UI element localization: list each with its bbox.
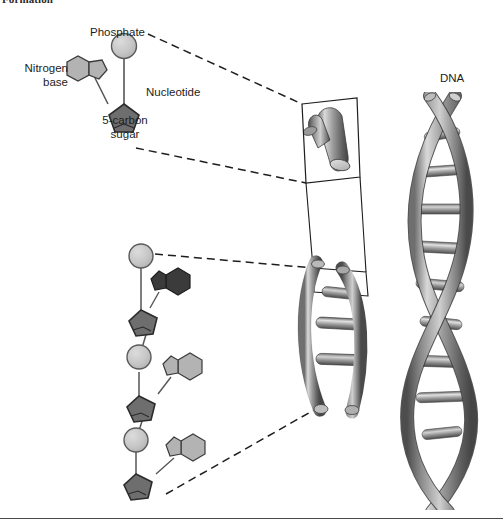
segment-left-cut-top	[312, 260, 325, 268]
label-dna: DNA	[440, 72, 464, 85]
dna-structure-figure: DNA Formation	[0, 0, 503, 531]
chain-base-2-hexagon	[178, 353, 202, 380]
chain-base-1-pentagon	[151, 271, 166, 290]
label-nucleotide: Nucleotide	[146, 86, 200, 99]
segment-right-cut-top	[337, 266, 350, 274]
base-sugar-bond	[95, 78, 108, 104]
label-nitrogen-base-line1: Nitrogen	[0, 62, 68, 75]
chain-sugar-2	[127, 396, 155, 422]
chain-base-3-bond	[156, 458, 174, 474]
connector-chain-top-to-helix	[155, 254, 313, 268]
nitrogen-base-pentagon	[89, 60, 107, 79]
chain-phosphate-2	[127, 345, 151, 369]
dashed-connectors-upper	[136, 34, 306, 183]
helix-segment-group	[304, 260, 362, 415]
chain-base-2-pentagon	[163, 356, 178, 375]
chain-sugar-1	[129, 310, 157, 336]
label-sugar-line1: 5-carbon	[79, 114, 171, 127]
chain-phosphate-3	[124, 428, 148, 452]
nucleotide-chain-group	[124, 244, 205, 500]
chain-phosphate-1	[129, 244, 153, 268]
chain-base-3-pentagon	[166, 437, 181, 456]
helix-rung-8	[416, 391, 466, 403]
callout-line-left	[306, 183, 313, 268]
nitrogen-base-hexagon	[67, 56, 89, 81]
chain-base-1-bond	[150, 292, 159, 308]
chain-base-1-hexagon	[166, 268, 190, 295]
helix-rung-9	[422, 426, 463, 440]
chain-base-3-hexagon	[181, 434, 205, 461]
label-sugar-line2: sugar	[79, 128, 171, 141]
segment-right-cut-bottom	[345, 406, 359, 415]
connector-sugar-to-inset	[136, 148, 306, 183]
label-nitrogen-base-line2: base	[0, 76, 68, 89]
chain-base-2-bond	[158, 377, 171, 394]
dna-double-helix-group	[407, 91, 471, 512]
label-phosphate: Phosphate	[90, 26, 145, 39]
segment-left-cut-bottom	[314, 405, 328, 414]
callout-line-right	[360, 177, 366, 272]
figure-canvas	[0, 0, 503, 531]
bottom-divider-rule	[0, 518, 503, 519]
magnified-inset-group	[296, 92, 368, 192]
segment-backbone-left-top	[304, 262, 320, 410]
chain-sugar-3	[124, 474, 152, 500]
